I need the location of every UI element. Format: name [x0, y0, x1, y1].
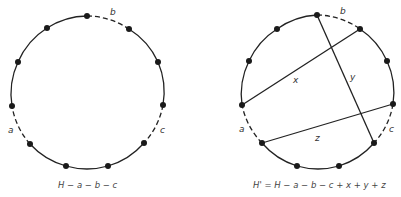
left-label-c: c: [160, 125, 165, 135]
left-label-a: a: [8, 125, 14, 135]
vertex: [246, 58, 252, 64]
left-edge-a-dashed: [12, 106, 30, 144]
right-cycle-solid-arc: [360, 29, 394, 104]
vertex: [126, 26, 132, 32]
right-edge-a-dashed: [242, 105, 262, 143]
chord-z: [262, 104, 393, 143]
left-edge-b-dashed: [87, 16, 129, 29]
chord-x: [242, 29, 360, 105]
right-label-b: b: [340, 6, 346, 16]
vertex: [27, 141, 33, 147]
vertex: [336, 163, 342, 169]
chord-label-y: y: [349, 72, 356, 82]
right-vertices: [239, 12, 396, 169]
left-label-b: b: [110, 7, 116, 17]
right-cycle-diagram: b a c x y z H' = H − a − b − c + x + y +…: [239, 6, 396, 190]
vertex: [384, 58, 390, 64]
vertex: [239, 102, 245, 108]
vertex: [357, 26, 363, 32]
left-cycle-solid-arc: [129, 29, 164, 105]
vertex: [155, 59, 161, 65]
right-label-a: a: [239, 124, 245, 134]
vertex: [9, 103, 15, 109]
vertex: [294, 163, 300, 169]
vertex: [371, 140, 377, 146]
left-cycle-solid-arc: [30, 143, 144, 169]
right-edge-b-dashed: [317, 15, 360, 29]
chord-label-x: x: [292, 75, 299, 85]
right-label-c: c: [389, 124, 394, 134]
chord-label-z: z: [314, 133, 320, 143]
vertex: [259, 140, 265, 146]
vertex: [84, 13, 90, 19]
left-caption: H − a − b − c: [58, 180, 118, 190]
vertex: [15, 59, 21, 65]
vertex: [390, 101, 396, 107]
right-caption: H' = H − a − b − c + x + y + z: [253, 180, 386, 190]
hamiltonian-cycle-figure: b a c H − a − b − c b a c: [0, 0, 401, 197]
left-edge-c-dashed: [144, 105, 163, 143]
vertex: [160, 102, 166, 108]
vertex: [141, 140, 147, 146]
left-cycle-diagram: b a c H − a − b − c: [8, 7, 166, 190]
vertex: [44, 25, 50, 31]
vertex: [314, 12, 320, 18]
vertex: [63, 163, 69, 169]
vertex: [105, 163, 111, 169]
vertex: [274, 26, 280, 32]
right-cycle-solid-arc: [262, 143, 374, 169]
